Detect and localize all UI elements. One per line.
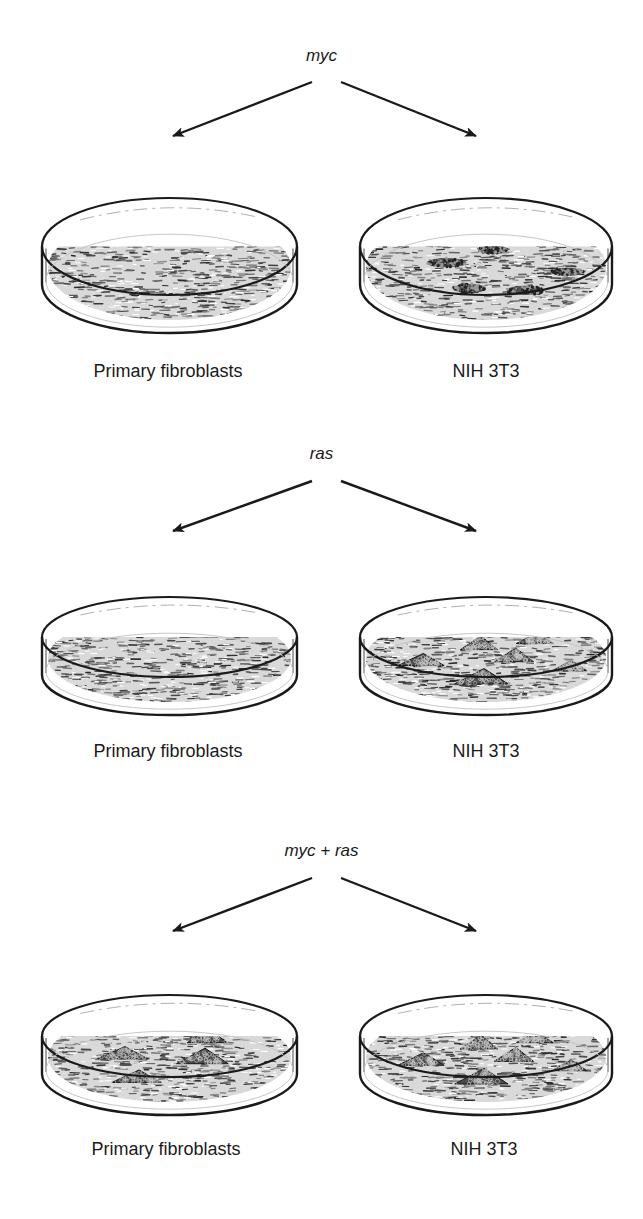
petri-dish-left <box>42 597 306 715</box>
dish-label-right: NIH 3T3 <box>356 741 616 762</box>
colony-focus <box>187 1027 227 1044</box>
petri-dish-right <box>360 198 619 333</box>
arrow-right <box>341 481 476 531</box>
panel-art <box>0 0 643 400</box>
petri-dish-right <box>360 995 622 1116</box>
dish-label-left: Primary fibroblasts <box>36 1139 296 1160</box>
dish-label-left: Primary fibroblasts <box>38 361 298 382</box>
petri-dish-left <box>42 995 306 1115</box>
dish-label-right: NIH 3T3 <box>356 361 616 382</box>
colony-focus <box>478 244 508 255</box>
arrow-right <box>341 878 476 931</box>
arrow-left <box>173 878 312 931</box>
petri-dish-left <box>42 198 305 334</box>
arrow-left <box>173 82 312 136</box>
panel-myc: myc Primary fibroblasts NIH 3T3 <box>0 0 643 400</box>
petri-dish-right <box>360 597 620 715</box>
panel-ras: ras Primary fibroblasts NIH 3T3 <box>0 400 643 800</box>
dish-label-left: Primary fibroblasts <box>38 741 298 762</box>
arrow-right <box>341 82 476 136</box>
arrow-left <box>173 481 312 531</box>
panel-myc-ras: myc + ras Primary fibroblasts NIH 3T3 <box>0 800 643 1200</box>
dish-label-right: NIH 3T3 <box>354 1139 614 1160</box>
panel-art <box>0 400 643 800</box>
